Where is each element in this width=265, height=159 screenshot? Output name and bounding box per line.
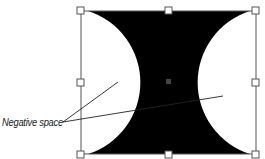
handle-center[interactable] (166, 79, 171, 84)
handle-bottom-right[interactable] (252, 151, 259, 158)
handle-top-center[interactable] (165, 7, 172, 14)
diagram-canvas (0, 0, 265, 159)
handle-middle-right[interactable] (252, 79, 259, 86)
handle-top-left[interactable] (77, 7, 84, 14)
negative-space-label: Negative space (2, 116, 63, 128)
handle-middle-left[interactable] (77, 79, 84, 86)
handle-bottom-left[interactable] (77, 151, 84, 158)
handle-bottom-center[interactable] (165, 151, 172, 158)
leader-line-left (63, 82, 118, 122)
handle-top-right[interactable] (252, 7, 259, 14)
